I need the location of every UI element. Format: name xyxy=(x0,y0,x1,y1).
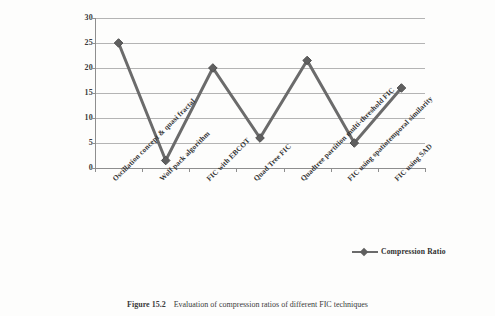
figure-container: 051015202530 Oscillation concept & quasi… xyxy=(0,0,495,316)
figure-caption-label: Figure 15.2 xyxy=(127,300,166,309)
legend-marker-icon xyxy=(352,247,378,256)
x-axis-tick-mark xyxy=(425,168,426,172)
x-axis-tick-mark xyxy=(95,168,96,172)
figure-caption-text: Evaluation of compression ratios of diff… xyxy=(174,300,368,309)
data-point-marker xyxy=(114,39,123,48)
x-axis-tick-mark xyxy=(378,168,379,172)
series-compression-ratio xyxy=(95,18,425,168)
x-axis-tick-mark xyxy=(236,168,237,172)
legend-label: Compression Ratio xyxy=(381,247,446,256)
figure-caption: Figure 15.2 Evaluation of compression ra… xyxy=(0,300,495,309)
y-axis-tick-label: 30 xyxy=(65,13,93,22)
plot-area: 051015202530 xyxy=(95,18,425,168)
y-axis-tick-label: 10 xyxy=(65,113,93,122)
y-axis-tick-label: 20 xyxy=(65,63,93,72)
x-axis-tick-mark xyxy=(142,168,143,172)
chart-legend: Compression Ratio xyxy=(352,247,446,256)
diamond-marker-icon xyxy=(360,247,368,255)
y-axis-tick-label: 25 xyxy=(65,38,93,47)
y-axis-tick-label: 0 xyxy=(65,163,93,172)
x-axis-tick-mark xyxy=(189,168,190,172)
y-axis-tick-label: 15 xyxy=(65,88,93,97)
x-axis-tick-mark xyxy=(331,168,332,172)
x-axis-line xyxy=(95,168,425,169)
x-axis-tick-mark xyxy=(284,168,285,172)
y-axis-tick-label: 5 xyxy=(65,138,93,147)
